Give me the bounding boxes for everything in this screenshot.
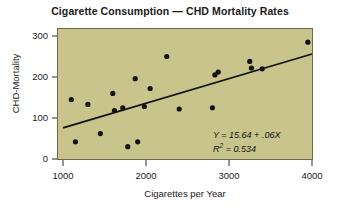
- data-point: [247, 59, 252, 64]
- chart-figure: Cigarette Consumption — CHD Mortality Ra…: [0, 0, 340, 212]
- x-tick-label-3000: 3000: [206, 170, 252, 181]
- y-tick-label-0: 0: [14, 153, 48, 164]
- data-point: [73, 139, 78, 144]
- data-point: [177, 106, 182, 111]
- data-point: [69, 97, 74, 102]
- data-point: [164, 54, 169, 59]
- y-axis-label: CHD-Mortality: [10, 34, 21, 134]
- data-point: [98, 131, 103, 136]
- x-tick-label-1000: 1000: [40, 170, 86, 181]
- data-point: [112, 108, 117, 113]
- data-point: [260, 66, 265, 71]
- data-point: [135, 139, 140, 144]
- equation-body: = 15.64 + .06: [219, 130, 275, 140]
- x-tick-label-2000: 2000: [123, 170, 169, 181]
- data-point: [305, 40, 310, 45]
- y-axis-ticks: [52, 36, 57, 159]
- data-point: [148, 86, 153, 91]
- data-point: [133, 76, 138, 81]
- regression-line: [63, 54, 312, 128]
- data-point: [120, 105, 125, 110]
- data-point: [85, 102, 90, 107]
- r-value: = 0.534: [223, 144, 256, 154]
- data-point: [110, 91, 115, 96]
- r-squared-annotation: R2 = 0.534: [213, 142, 256, 154]
- equation-x-var: X: [274, 130, 280, 140]
- regression-equation-annotation: Y = 15.64 + .06X: [213, 130, 280, 140]
- data-point: [210, 105, 215, 110]
- data-point: [142, 104, 147, 109]
- data-point: [216, 69, 221, 74]
- data-point: [249, 65, 254, 70]
- x-tick-label-4000: 4000: [289, 170, 335, 181]
- data-point: [125, 144, 130, 149]
- x-axis-label: Cigarettes per Year: [57, 188, 313, 199]
- x-axis-ticks: [63, 160, 312, 166]
